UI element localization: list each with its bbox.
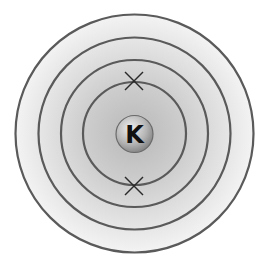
element-symbol: K [125, 121, 145, 149]
bohr-diagram: K [0, 0, 264, 259]
